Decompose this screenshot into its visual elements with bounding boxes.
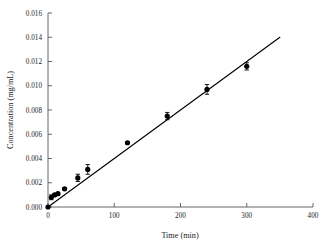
- y-axis-title: Concentration (mg/mL): [6, 71, 15, 149]
- data-point: [55, 191, 60, 196]
- x-tick-label: 400: [308, 212, 319, 220]
- data-point: [125, 140, 130, 145]
- x-tick-label: 300: [241, 212, 252, 220]
- y-tick-label: 0.006: [26, 131, 43, 139]
- y-tick-label: 0.002: [26, 179, 43, 187]
- y-axis-tick-labels: 0.0000.0020.0040.0060.0080.0100.0120.014…: [26, 10, 43, 212]
- data-point: [204, 87, 209, 92]
- y-tick-label: 0.000: [26, 204, 43, 212]
- data-point: [75, 175, 80, 180]
- data-point: [85, 167, 90, 172]
- x-tick-label: 200: [175, 212, 186, 220]
- y-tick-label: 0.014: [26, 34, 43, 42]
- y-tick-label: 0.016: [26, 10, 43, 18]
- data-point: [62, 186, 67, 191]
- concentration-vs-time-scatter-plot: 0.0000.0020.0040.0060.0080.0100.0120.014…: [0, 0, 333, 249]
- y-tick-label: 0.012: [26, 58, 43, 66]
- x-tick-label: 100: [109, 212, 120, 220]
- x-axis-title: Time (min): [161, 231, 199, 240]
- data-point: [244, 64, 249, 69]
- y-tick-label: 0.010: [26, 82, 43, 90]
- data-point: [165, 113, 170, 118]
- data-point: [45, 204, 50, 209]
- y-tick-label: 0.004: [26, 155, 43, 163]
- y-tick-label: 0.008: [26, 107, 43, 115]
- x-tick-label: 0: [46, 212, 50, 220]
- chart-figure: 0.0000.0020.0040.0060.0080.0100.0120.014…: [0, 0, 333, 249]
